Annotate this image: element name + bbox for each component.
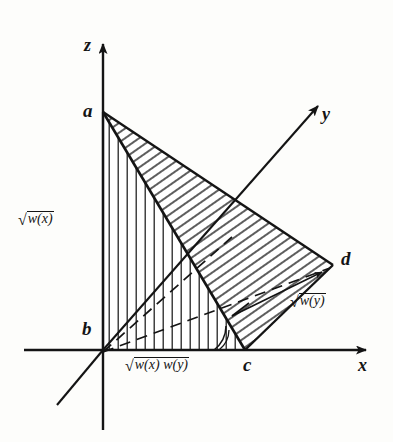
radicand-wy: w(y) bbox=[299, 293, 326, 308]
radicand-wx: w(x) bbox=[27, 211, 54, 226]
vertex-label-a: a bbox=[83, 101, 93, 120]
radicand-wxwy: w(x) w(y) bbox=[134, 357, 189, 372]
x-axis-label: x bbox=[358, 356, 367, 374]
vertex-label-b: b bbox=[82, 319, 92, 338]
figure-drawing bbox=[0, 0, 393, 442]
figure-root: z x y a b c d √w(x) √w(x) w(y) √w(y) bbox=[0, 0, 393, 442]
radical-sign-wxwy: √ bbox=[125, 357, 134, 374]
radical-sign-wy: √ bbox=[290, 293, 299, 310]
vertex-label-d: d bbox=[341, 249, 351, 268]
measure-label-sqrt-w-x: √w(x) bbox=[16, 211, 54, 227]
y-axis-label: y bbox=[322, 105, 330, 123]
measure-label-sqrt-w-y: √w(y) bbox=[288, 293, 326, 309]
measure-label-sqrt-w-x-w-y: √w(x) w(y) bbox=[123, 357, 189, 373]
radical-sign-wx: √ bbox=[18, 211, 27, 228]
vertex-label-c: c bbox=[243, 355, 251, 374]
z-axis-label: z bbox=[84, 36, 91, 54]
